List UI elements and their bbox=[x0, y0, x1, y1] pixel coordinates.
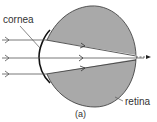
retina-label: retina bbox=[125, 97, 150, 107]
cornea-leader-line bbox=[20, 26, 40, 48]
arrowhead-focus-icon bbox=[146, 55, 151, 59]
cornea-label: cornea bbox=[3, 15, 34, 25]
figure-caption: (a) bbox=[75, 110, 86, 119]
